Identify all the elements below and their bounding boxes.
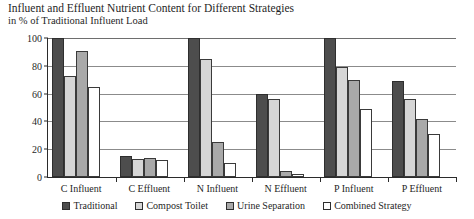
legend-item[interactable]: Compost Toilet xyxy=(135,200,208,211)
bar xyxy=(200,59,212,177)
x-axis-tick-mark xyxy=(388,177,389,182)
bar-group xyxy=(320,38,388,177)
bar xyxy=(404,99,416,177)
y-axis-tick-label: 20 xyxy=(32,144,42,155)
bar xyxy=(156,160,168,177)
bar-group xyxy=(116,38,184,177)
x-axis-tick-mark xyxy=(184,177,185,182)
bar xyxy=(76,51,88,177)
bar xyxy=(88,87,100,177)
x-axis-tick-mark xyxy=(456,177,457,182)
bar xyxy=(268,99,280,177)
bar xyxy=(392,81,404,177)
x-axis-labels: C InfluentC EffluentN InfluentN Effluent… xyxy=(47,183,456,194)
legend-swatch-icon xyxy=(62,202,70,210)
bar xyxy=(360,109,372,177)
y-axis-tick-label: 80 xyxy=(32,60,42,71)
legend-swatch-icon xyxy=(226,202,234,210)
plot-wrap: 020406080100 xyxy=(47,38,456,178)
x-axis-label: P Influent xyxy=(320,183,388,194)
bar-group xyxy=(388,38,456,177)
legend-swatch-icon xyxy=(135,202,143,210)
legend-label: Compost Toilet xyxy=(146,200,208,211)
bar-group xyxy=(184,38,252,177)
chart-figure: Influent and Effluent Nutrient Content f… xyxy=(0,0,474,219)
bar xyxy=(416,119,428,177)
bar xyxy=(132,159,144,177)
legend-item[interactable]: Traditional xyxy=(62,200,117,211)
legend-label: Traditional xyxy=(73,200,117,211)
bar xyxy=(324,38,336,177)
bar xyxy=(212,142,224,177)
x-axis-tick-mark xyxy=(320,177,321,182)
x-axis-label: N Effluent xyxy=(252,183,320,194)
bar xyxy=(224,163,236,177)
chart-title: Influent and Effluent Nutrient Content f… xyxy=(8,2,468,15)
x-axis-label: N Influent xyxy=(183,183,251,194)
bar-group xyxy=(252,38,320,177)
legend-label: Urine Separation xyxy=(237,200,305,211)
plot-area: 020406080100 xyxy=(47,38,456,178)
legend-item[interactable]: Combined Strategy xyxy=(323,200,412,211)
chart-title-block: Influent and Effluent Nutrient Content f… xyxy=(8,2,468,27)
bar xyxy=(188,38,200,177)
y-axis-tick-label: 40 xyxy=(32,116,42,127)
bar xyxy=(256,94,268,177)
x-axis-label: C Influent xyxy=(47,183,115,194)
chart-legend: TraditionalCompost ToiletUrine Separatio… xyxy=(0,200,474,211)
legend-label: Combined Strategy xyxy=(334,200,412,211)
x-axis-label: P Effluent xyxy=(388,183,456,194)
bar xyxy=(348,80,360,177)
y-axis-tick-label: 60 xyxy=(32,88,42,99)
bar-group xyxy=(48,38,116,177)
bar xyxy=(120,156,132,177)
y-axis-tick-label: 100 xyxy=(27,33,42,44)
bar xyxy=(144,158,156,177)
chart-subtitle: in % of Traditional Influent Load xyxy=(8,15,468,27)
y-axis-tick-label: 0 xyxy=(37,172,42,183)
x-axis-tick-mark xyxy=(116,177,117,182)
x-axis-label: C Effluent xyxy=(115,183,183,194)
legend-swatch-icon xyxy=(323,202,331,210)
legend-item[interactable]: Urine Separation xyxy=(226,200,305,211)
bar xyxy=(292,174,304,177)
bar xyxy=(428,134,440,177)
bar xyxy=(336,67,348,177)
x-axis-tick-mark xyxy=(252,177,253,182)
bar-groups xyxy=(48,38,456,177)
bar xyxy=(64,76,76,177)
bar xyxy=(52,38,64,177)
bar xyxy=(280,171,292,177)
